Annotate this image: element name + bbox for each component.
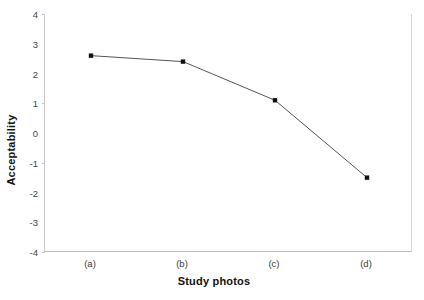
y-tick-mark	[42, 103, 45, 104]
x-tick-label: (b)	[176, 258, 188, 269]
y-tick-mark	[42, 163, 45, 164]
x-tick-label: (a)	[84, 258, 96, 269]
y-tick-mark	[42, 252, 45, 253]
acceptability-line-chart: Acceptability 43210-1-2-3-4 (a)(b)(c)(d)…	[0, 0, 424, 300]
data-point-marker	[273, 98, 277, 102]
y-axis-tick-labels: 43210-1-2-3-4	[22, 0, 38, 300]
y-tick-label: 3	[22, 38, 38, 49]
data-point-marker	[181, 59, 185, 63]
x-axis-tick-labels: (a)(b)(c)(d)	[44, 258, 412, 274]
y-tick-mark	[42, 14, 45, 15]
y-tick-label: -2	[22, 187, 38, 198]
y-tick-label: -3	[22, 217, 38, 228]
data-series-acceptability	[45, 14, 413, 252]
y-tick-label: 4	[22, 9, 38, 20]
series-markers	[89, 53, 369, 179]
x-tick-label: (d)	[360, 258, 372, 269]
series-line	[91, 56, 367, 178]
y-tick-label: 0	[22, 128, 38, 139]
plot-area	[44, 14, 412, 252]
data-point-marker	[89, 53, 93, 57]
y-tick-label: 1	[22, 98, 38, 109]
y-tick-label: 2	[22, 68, 38, 79]
x-tick-label: (c)	[268, 258, 279, 269]
y-axis-title: Acceptability	[0, 0, 22, 300]
y-tick-label: -1	[22, 157, 38, 168]
x-axis-title: Study photos	[44, 275, 384, 287]
data-point-marker	[365, 175, 369, 179]
y-tick-label: -4	[22, 247, 38, 258]
